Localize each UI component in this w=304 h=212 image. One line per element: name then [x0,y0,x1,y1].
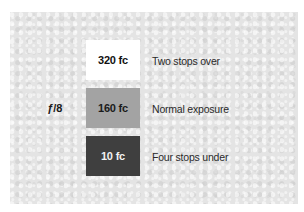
swatch-normal-exposure: 160 fc [86,88,140,128]
swatch-illuminance: 10 fc [101,150,125,162]
swatch-two-stops-over: 320 fc [86,40,140,80]
swatch-four-stops-under: 10 fc [86,136,140,176]
swatch-illuminance: 160 fc [98,102,128,114]
aperture-value: /8 [53,102,62,114]
description-two-stops-over: Two stops over [152,55,220,67]
aperture-label: ƒ/8 [47,102,62,114]
swatch-illuminance: 320 fc [98,54,128,66]
description-normal-exposure: Normal exposure [152,103,229,115]
description-four-stops-under: Four stops under [152,151,228,163]
